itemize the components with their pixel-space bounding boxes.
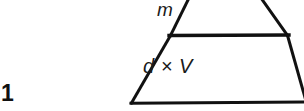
horizontal-divider — [169, 35, 289, 36]
upper-section-label-text: m — [157, 0, 173, 19]
lower-section-label: d × V — [16, 56, 304, 76]
upper-section-label: m — [13, 0, 304, 19]
item-number-label: 1 — [1, 82, 14, 105]
base-edge — [131, 102, 304, 103]
figure-screenshot: m d × V 1 — [0, 0, 304, 111]
lower-section-label-text: d × V — [143, 56, 193, 76]
